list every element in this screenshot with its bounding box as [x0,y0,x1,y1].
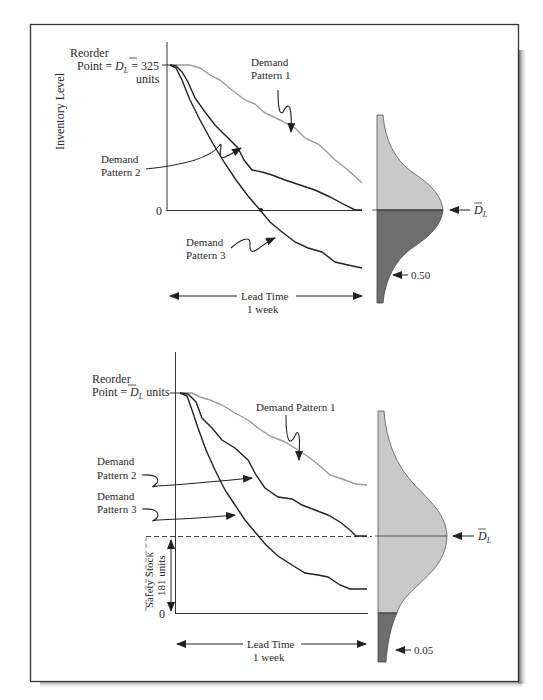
top-demand-pattern-1-label-line1: Demand [251,56,289,68]
bottom-demand-pattern-1-label: Demand Pattern 1 [256,401,335,413]
figure-canvas: 0 Inventory Level Reorder Point = DL = 3… [0,0,543,700]
bottom-demand-pattern-3-label-line2: Pattern 3 [97,503,137,515]
top-demand-pattern-1-label-line2: Pattern 1 [251,69,290,81]
bottom-lead-time-value: 1 week [253,651,285,663]
figure-frame [31,25,519,682]
bottom-reorder-label-line1: Reorder [92,372,131,386]
bottom-safety-stock-label: Safety Stock [143,552,155,608]
bottom-reorder-label-line2: Point = DL units [92,385,170,401]
diagram-svg: 0 Inventory Level Reorder Point = DL = 3… [0,0,543,700]
bottom-demand-pattern-2-label-line1: Demand [97,455,135,467]
top-probability-label: 0.50 [411,269,431,281]
top-reorder-label-line1: Reorder [70,46,109,60]
top-y-axis-label: Inventory Level [53,72,67,150]
bottom-zero-tick: 0 [159,607,165,621]
bottom-probability-label: 0.05 [414,644,434,656]
top-demand-pattern-2-label-line2: Pattern 2 [101,166,140,178]
top-zero-tick: 0 [156,204,162,218]
bottom-lead-time-label: Lead Time [247,638,294,650]
top-lead-time-value: 1 week [247,303,279,315]
top-demand-pattern-3-label-line1: Demand [186,236,224,248]
top-lead-time-label: Lead Time [241,290,288,302]
bottom-safety-stock-value: 181 units [155,555,167,596]
bottom-demand-pattern-3-label-line1: Demand [97,490,135,502]
top-stockout-point [259,208,263,212]
bottom-demand-pattern-2-label-line2: Pattern 2 [97,469,136,481]
top-demand-pattern-3-label-line2: Pattern 3 [186,249,226,261]
top-demand-pattern-2-label-line1: Demand [101,153,139,165]
top-reorder-units: units [136,72,160,86]
